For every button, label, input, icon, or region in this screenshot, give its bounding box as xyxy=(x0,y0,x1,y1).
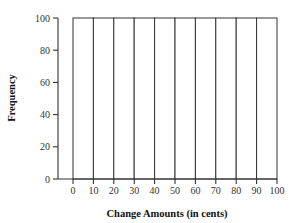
y-axis: 020406080100 xyxy=(35,13,58,185)
x-tick-label: 100 xyxy=(270,185,285,196)
histogram-bar xyxy=(134,18,154,179)
y-tick-label: 100 xyxy=(35,13,50,24)
y-tick-label: 80 xyxy=(40,45,50,56)
histogram-bar xyxy=(236,18,256,179)
histogram-bar xyxy=(155,18,175,179)
x-tick-label: 60 xyxy=(190,185,200,196)
x-tick-label: 0 xyxy=(71,185,76,196)
histogram-bars xyxy=(73,18,277,179)
y-tick-label: 40 xyxy=(40,109,50,120)
y-tick-label: 20 xyxy=(40,141,50,152)
x-tick-label: 20 xyxy=(109,185,119,196)
y-tick-label: 0 xyxy=(45,174,50,185)
x-tick-label: 10 xyxy=(88,185,98,196)
histogram-bar xyxy=(175,18,195,179)
histogram-bar xyxy=(257,18,277,179)
histogram-chart: 020406080100 0102030405060708090100 Freq… xyxy=(0,0,300,223)
y-tick-label: 60 xyxy=(40,77,50,88)
x-tick-label: 70 xyxy=(211,185,221,196)
x-axis-title: Change Amounts (in cents) xyxy=(106,208,228,220)
x-tick-label: 50 xyxy=(170,185,180,196)
histogram-bar xyxy=(93,18,113,179)
histogram-bar xyxy=(216,18,236,179)
x-tick-label: 90 xyxy=(252,185,262,196)
x-tick-label: 40 xyxy=(150,185,160,196)
x-tick-label: 80 xyxy=(231,185,241,196)
histogram-bar xyxy=(195,18,215,179)
y-axis-title: Frequency xyxy=(6,73,17,121)
histogram-bar xyxy=(114,18,134,179)
x-axis: 0102030405060708090100 xyxy=(58,179,285,196)
histogram-bar xyxy=(73,18,93,179)
x-tick-label: 30 xyxy=(129,185,139,196)
